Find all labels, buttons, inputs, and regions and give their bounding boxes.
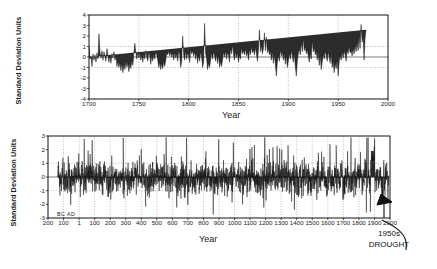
- y-tick-label: 1: [32, 159, 45, 166]
- top-chart-panel: Standard Deviation Units Year 1700175018…: [0, 0, 437, 130]
- x-tick-label: 1900: [274, 100, 302, 107]
- drought-annotation: 1950s DROUGHT: [352, 228, 426, 250]
- y-tick-label: 0: [73, 53, 86, 60]
- data-series-area: [89, 23, 366, 76]
- tree-ring-standard-deviation-figure: Standard Deviation Units Year 1700175018…: [0, 0, 437, 269]
- y-tick-label: -2: [73, 74, 86, 81]
- bc-ad-era-marker: BC AD: [57, 211, 75, 217]
- data-series-area: [58, 137, 389, 214]
- drought-annotation-line1: 1950s: [352, 228, 426, 239]
- y-tick-label: 3: [73, 22, 86, 29]
- top-chart-y-axis-label: Standard Deviation Units: [14, 13, 23, 108]
- bottom-chart-y-axis-label: Standard Deviation Units: [9, 135, 18, 230]
- x-tick-label: 1950: [324, 100, 352, 107]
- y-tick-label: -3: [32, 214, 45, 221]
- y-tick-label: 1: [73, 43, 86, 50]
- x-tick-label: 1850: [225, 100, 253, 107]
- x-tick-label: 1800: [175, 100, 203, 107]
- top-chart-plot: [0, 0, 437, 130]
- x-tick-label: 2000: [374, 100, 402, 107]
- x-tick-label: 2000: [376, 219, 404, 226]
- y-tick-label: 4: [73, 11, 86, 18]
- bottom-chart-x-axis-label: Year: [199, 234, 217, 244]
- y-tick-label: 2: [73, 32, 86, 39]
- y-tick-label: 3: [32, 132, 45, 139]
- y-tick-label: 0: [32, 173, 45, 180]
- y-tick-label: -3: [73, 85, 86, 92]
- y-tick-label: -1: [73, 64, 86, 71]
- y-tick-label: 2: [32, 146, 45, 153]
- x-tick-label: 1750: [125, 100, 153, 107]
- y-tick-label: -2: [32, 200, 45, 207]
- y-tick-label: -4: [73, 95, 86, 102]
- y-tick-label: -1: [32, 187, 45, 194]
- bottom-chart-panel: Standard Deviation Units BC AD Year 1950…: [0, 130, 437, 269]
- drought-annotation-line2: DROUGHT: [352, 239, 426, 250]
- top-chart-x-axis-label: Year: [222, 110, 240, 120]
